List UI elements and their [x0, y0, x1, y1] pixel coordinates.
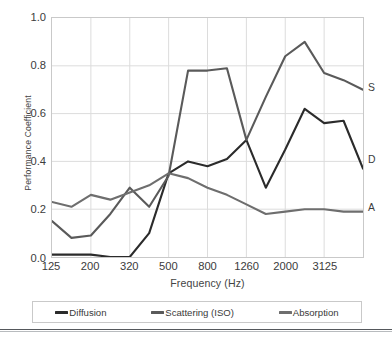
legend-item-label: Absorption — [293, 307, 339, 318]
legend-swatch-icon — [55, 311, 68, 314]
page-divider-shadow — [0, 331, 392, 332]
series-end-label-scattering: S — [368, 83, 375, 93]
legend-item-label: Scattering (ISO) — [165, 307, 234, 318]
legend-item[interactable]: Scattering (ISO) — [151, 307, 234, 318]
y-axis-tick-label: 0.6 — [18, 108, 46, 119]
page-divider-line — [0, 329, 392, 330]
y-axis-tick-labels: 1.00.80.60.40.20.0 — [14, 0, 46, 338]
legend-swatch-icon — [279, 311, 292, 314]
chart-figure: Performance Coefficient 1.00.80.60.40.20… — [0, 0, 392, 338]
legend-item[interactable]: Diffusion — [55, 307, 106, 318]
chart-legend: DiffusionScattering (ISO)Absorption — [32, 301, 362, 323]
y-axis-tick-label: 0.2 — [18, 204, 46, 215]
x-axis-title: Frequency (Hz) — [51, 277, 364, 289]
legend-item-label: Diffusion — [69, 307, 106, 318]
plot-area — [51, 17, 364, 258]
legend-item[interactable]: Absorption — [279, 307, 339, 318]
y-axis-tick-label: 0.8 — [18, 60, 46, 71]
series-end-label-diffusion: D — [368, 155, 376, 165]
x-axis-tick-label: 3125 — [295, 261, 355, 272]
series-end-label-absorption: A — [368, 203, 375, 213]
legend-swatch-icon — [151, 311, 164, 314]
chart-canvas — [52, 18, 363, 257]
y-axis-tick-label: 0.4 — [18, 156, 46, 167]
y-axis-tick-label: 1.0 — [18, 12, 46, 23]
x-axis-tick-labels: 125200320500800126020003125 — [51, 261, 364, 277]
